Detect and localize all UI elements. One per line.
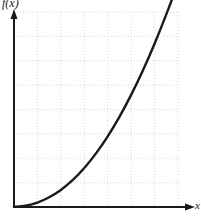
horizontal-gridlines xyxy=(14,12,178,183)
chart-figure: f(x) x xyxy=(0,0,201,216)
x-axis-arrowhead xyxy=(185,204,195,211)
function-curve xyxy=(14,0,185,207)
y-axis-arrowhead xyxy=(11,9,18,19)
plot-area xyxy=(0,0,201,216)
